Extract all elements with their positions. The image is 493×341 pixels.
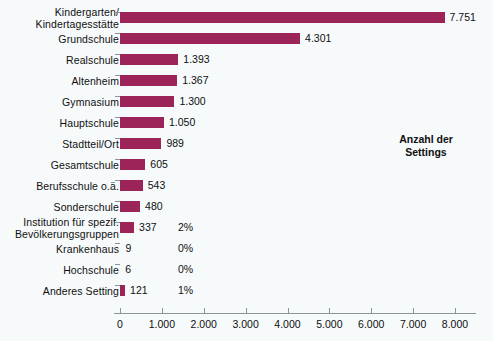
category-label: Sonderschule bbox=[0, 202, 119, 213]
category-label: Institution für spezif. Bevölkerungsgrup… bbox=[0, 217, 119, 240]
chart-row: Berufsschule o.ä.543 bbox=[0, 180, 493, 201]
bar-value-label: 4.301 bbox=[305, 33, 331, 44]
category-label: Altenheim bbox=[0, 76, 119, 87]
chart-row: Anderes Setting1211% bbox=[0, 285, 493, 306]
category-label: Gymnasium bbox=[0, 97, 119, 108]
category-label: Krankenhaus bbox=[0, 244, 119, 255]
x-axis-tick bbox=[329, 308, 330, 313]
x-axis-tick bbox=[288, 308, 289, 313]
bar-value-label: 1.367 bbox=[182, 75, 208, 86]
category-label: Kindergarten/ Kindertagesstätte bbox=[0, 7, 119, 30]
bar-percent-label: 0% bbox=[178, 264, 193, 275]
chart-row: Grundschule4.301 bbox=[0, 33, 493, 54]
x-axis-line bbox=[114, 313, 476, 314]
bar-percent-label: 1% bbox=[178, 285, 193, 296]
x-axis-tick bbox=[455, 308, 456, 313]
category-label: Hauptschule bbox=[0, 118, 119, 129]
bar bbox=[120, 180, 143, 191]
bar-value-label: 337 bbox=[139, 222, 157, 233]
bar bbox=[120, 54, 178, 65]
chart-row: Gesamtschule605 bbox=[0, 159, 493, 180]
bar-value-label: 989 bbox=[166, 138, 184, 149]
category-label: Gesamtschule bbox=[0, 160, 119, 171]
legend-line-1: Anzahl der bbox=[380, 133, 472, 146]
category-label: Berufsschule o.ä. bbox=[0, 181, 119, 192]
bar bbox=[120, 201, 140, 212]
bar-percent-label: 2% bbox=[178, 222, 193, 233]
bar bbox=[120, 285, 125, 296]
bar-value-label: 605 bbox=[150, 159, 168, 170]
bar bbox=[120, 117, 164, 128]
legend-label: Anzahl der Settings bbox=[380, 133, 472, 158]
category-label: Grundschule bbox=[0, 34, 119, 45]
chart-row: Hochschule60% bbox=[0, 264, 493, 285]
x-axis-tick bbox=[413, 308, 414, 313]
category-label: Stadtteil/Ort bbox=[0, 139, 119, 150]
horizontal-bar-chart: Kindergarten/ Kindertagesstätte7.751Grun… bbox=[0, 0, 493, 341]
x-axis-tick bbox=[162, 308, 163, 313]
chart-row: Altenheim1.367 bbox=[0, 75, 493, 96]
chart-row: Gymnasium1.300 bbox=[0, 96, 493, 117]
bar bbox=[120, 33, 300, 44]
x-axis-tick bbox=[120, 308, 121, 313]
x-axis-tick bbox=[371, 308, 372, 313]
bar bbox=[120, 75, 177, 86]
bar-value-label: 9 bbox=[125, 243, 131, 254]
bar-value-label: 543 bbox=[148, 180, 166, 191]
y-axis-tick bbox=[115, 264, 120, 265]
category-label: Hochschule bbox=[0, 265, 119, 276]
bar-value-label: 6 bbox=[125, 264, 131, 275]
category-label: Realschule bbox=[0, 55, 119, 66]
x-axis-tick bbox=[204, 308, 205, 313]
bar-value-label: 480 bbox=[145, 201, 163, 212]
bar-value-label: 7.751 bbox=[450, 12, 476, 23]
bar bbox=[120, 159, 145, 170]
bar bbox=[120, 96, 174, 107]
chart-row: Institution für spezif. Bevölkerungsgrup… bbox=[0, 222, 493, 243]
bar-value-label: 1.393 bbox=[183, 54, 209, 65]
bar-value-label: 1.050 bbox=[169, 117, 195, 128]
bar bbox=[120, 222, 134, 233]
bar-percent-label: 0% bbox=[178, 243, 193, 254]
category-label: Anderes Setting bbox=[0, 286, 119, 297]
x-axis-tick bbox=[246, 308, 247, 313]
x-axis-tick-label: 8.000 bbox=[425, 318, 485, 330]
bar-value-label: 121 bbox=[130, 285, 148, 296]
chart-row: Kindergarten/ Kindertagesstätte7.751 bbox=[0, 12, 493, 33]
legend-line-2: Settings bbox=[380, 146, 472, 159]
chart-row: Realschule1.393 bbox=[0, 54, 493, 75]
bar bbox=[120, 12, 445, 23]
bar bbox=[120, 138, 161, 149]
chart-row: Krankenhaus90% bbox=[0, 243, 493, 264]
plot-area: Kindergarten/ Kindertagesstätte7.751Grun… bbox=[0, 0, 493, 341]
y-axis-tick bbox=[115, 243, 120, 244]
bar-value-label: 1.300 bbox=[179, 96, 205, 107]
